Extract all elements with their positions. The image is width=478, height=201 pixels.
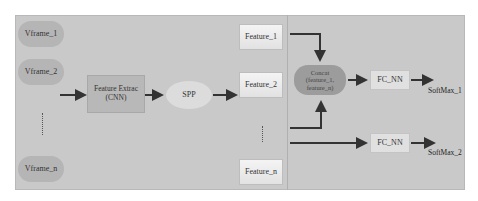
- fc-nn-1-label: FC_NN: [377, 75, 402, 84]
- spp-label: SPP: [182, 90, 195, 99]
- concat-line3: feature_n): [307, 84, 334, 91]
- input-vframe-n: Vframe_n: [18, 156, 64, 182]
- vframe-n-label: Vframe_n: [25, 164, 57, 173]
- concat-line2: (feature_1,: [306, 76, 334, 83]
- fc-nn-2-node: FC_NN: [370, 133, 410, 153]
- feature-1-label: Feature_1: [245, 32, 277, 41]
- vframe-2-label: Vframe_2: [25, 67, 57, 76]
- input-vframe-2: Vframe_2: [18, 59, 64, 85]
- arrow-feature1-to-concat: [290, 34, 320, 60]
- vframe-1-label: Vframe_1: [25, 29, 57, 38]
- arrow-featuren-to-concat: [290, 102, 321, 128]
- input-vframe-1: Vframe_1: [18, 21, 64, 47]
- fc-nn-2-label: FC_NN: [377, 138, 402, 147]
- feature-2-label: Feature_2: [245, 80, 277, 89]
- input-ellipsis: [42, 113, 45, 135]
- feature-2-node: Feature_2: [239, 72, 283, 98]
- feature-extractor-node: Feature Extrac (CNN): [87, 75, 145, 113]
- softmax-2-label: SoftMax_2: [428, 148, 462, 157]
- feature-n-node: Feature_n: [239, 159, 283, 185]
- spp-node: SPP: [166, 81, 212, 109]
- feature-n-label: Feature_n: [245, 167, 277, 176]
- fc-nn-1-node: FC_NN: [370, 70, 410, 90]
- concat-node: Concat (feature_1, feature_n): [294, 65, 346, 95]
- concat-line1: Concat: [311, 69, 329, 76]
- feature-ellipsis: [262, 126, 265, 142]
- feature-extractor-line2: (CNN): [106, 94, 127, 103]
- softmax-1-label: SoftMax_1: [428, 86, 462, 95]
- feature-1-node: Feature_1: [239, 24, 283, 50]
